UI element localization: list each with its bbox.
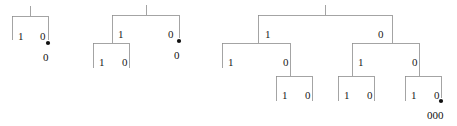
edge-label-1: 1 <box>265 29 271 40</box>
edge-label-1: 1 <box>411 90 417 101</box>
leaf-node-marker <box>177 39 181 43</box>
edge-label-0: 0 <box>305 90 311 101</box>
edge-label-1: 1 <box>282 90 288 101</box>
edge-label-1: 1 <box>18 31 24 42</box>
edge-label-0: 0 <box>122 57 128 68</box>
binary-tree-figure: 10010100101010101010000 <box>0 0 457 126</box>
edge-label-0: 0 <box>378 29 384 40</box>
edge-label-0: 0 <box>40 31 46 42</box>
edge-label-0: 0 <box>367 90 373 101</box>
edge-label-0: 0 <box>434 90 440 101</box>
edge-label-0: 0 <box>283 57 289 68</box>
edge-label-1: 1 <box>358 57 364 68</box>
codeword-label: 0 <box>174 50 180 61</box>
edge-label-1: 1 <box>118 29 124 40</box>
codeword-label: 000 <box>427 110 444 121</box>
edge-label-0: 0 <box>412 57 418 68</box>
leaf-node-marker <box>46 41 50 45</box>
edge-label-1: 1 <box>99 57 105 68</box>
edge-label-0: 0 <box>168 29 174 40</box>
edge-label-1: 1 <box>228 57 234 68</box>
codeword-label: 0 <box>43 52 49 63</box>
edge-label-1: 1 <box>344 90 350 101</box>
